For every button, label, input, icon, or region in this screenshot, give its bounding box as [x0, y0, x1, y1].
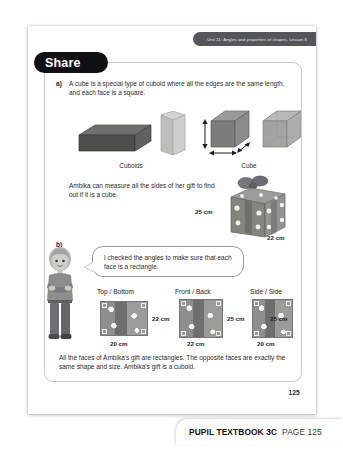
face-bottom-label-top-bottom: 20 cm	[110, 340, 128, 347]
face-title-front-back: Front / Back	[175, 288, 211, 295]
right-angle-marker	[216, 331, 220, 335]
face-side-label-front-back: 25 cm	[227, 315, 245, 322]
right-angle-marker	[141, 303, 145, 307]
page-number: 125	[288, 389, 300, 396]
right-angle-marker	[286, 301, 290, 305]
right-angle-marker	[181, 301, 185, 305]
face-bottom-label-front-back: 22 cm	[187, 340, 205, 347]
character-illustration	[39, 245, 81, 345]
speech-bubble: I checked the angles to make sure that e…	[92, 246, 244, 277]
part-a-text: A cube is a special type of cuboid where…	[69, 79, 287, 97]
cube-figure	[197, 107, 301, 161]
cuboids-figure	[75, 111, 187, 159]
right-angle-marker	[216, 301, 220, 305]
footer-book-label: PUPIL TEXTBOOK 3C	[189, 427, 277, 437]
right-angle-marker	[102, 329, 106, 333]
gift-height-label: 25 cm	[195, 208, 213, 215]
right-angle-marker	[141, 329, 145, 333]
cube-caption: Cube	[197, 162, 301, 169]
face-title-top-bottom: Top / Bottom	[97, 288, 134, 295]
unit-banner: Unit 11: Angles and properties of shapes…	[193, 32, 316, 46]
conclusion-text: All the faces of Ambika's gift are recta…	[59, 353, 289, 371]
ambika-text: Ambika can measure all the sides of her …	[69, 181, 219, 199]
footer-bar: PUPIL TEXTBOOK 3C PAGE 125	[176, 419, 343, 445]
face-side-label-top-bottom: 22 cm	[152, 315, 170, 322]
share-section-tab: Share	[34, 52, 108, 73]
face-rect-front-back	[179, 299, 223, 338]
right-angle-marker	[254, 301, 258, 305]
footer-page-label: PAGE 125	[282, 427, 322, 437]
right-angle-marker	[181, 331, 185, 335]
part-a-marker: a)	[56, 80, 62, 87]
right-angle-marker	[286, 331, 290, 335]
right-angle-marker	[102, 303, 106, 307]
face-bottom-label-side-side: 20 cm	[257, 340, 275, 347]
face-rect-top-bottom	[100, 301, 148, 336]
speech-bubble-tail	[85, 262, 94, 272]
gift-depth-label: 22 cm	[267, 234, 285, 241]
textbook-page: Unit 11: Angles and properties of shapes…	[28, 26, 316, 414]
speech-bubble-text: I checked the angles to make sure that e…	[104, 253, 232, 272]
right-angle-marker	[254, 331, 258, 335]
face-side-label-side-side: 25 cm	[270, 315, 288, 322]
cuboids-caption: Cuboids	[75, 162, 187, 169]
face-title-side-side: Side / Side	[250, 288, 282, 295]
content-frame: a) A cube is a special type of cuboid wh…	[44, 62, 302, 382]
